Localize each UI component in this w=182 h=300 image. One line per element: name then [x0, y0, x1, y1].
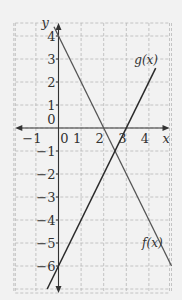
x-tick-label: 4: [141, 131, 149, 146]
x-axis-arrow-left-icon: [15, 125, 22, 131]
y-tick-label: −4: [36, 213, 55, 228]
function-graph: x y −11234043210−1−2−3−4−5−6 f(x) g(x): [0, 0, 182, 300]
y-tick-label: −3: [36, 190, 55, 205]
y-tick-label: 3: [47, 52, 55, 67]
y-tick-label: −2: [36, 167, 55, 182]
y-axis-label: y: [41, 15, 50, 30]
y-tick-label: 2: [47, 75, 55, 90]
x-tick-label: 2: [96, 131, 104, 146]
x-axis-label: x: [162, 131, 170, 146]
x-tick-label: 3: [118, 131, 126, 146]
y-tick-label: −1: [36, 144, 55, 159]
x-tick-label: 0: [60, 131, 68, 146]
y-tick-label: 0: [47, 112, 55, 127]
y-axis-arrow-up-icon: [56, 23, 62, 30]
y-tick-label: −5: [36, 236, 55, 251]
series-label-g: g(x): [134, 53, 158, 67]
series-line-g: [47, 68, 155, 289]
y-tick-label: 1: [47, 98, 55, 113]
series-label-f: f(x): [141, 236, 163, 250]
x-tick-label: 1: [73, 131, 81, 146]
y-tick-label: 4: [47, 29, 55, 44]
y-axis-arrow-down-icon: [56, 286, 62, 293]
y-tick-label: −6: [36, 259, 55, 274]
series: f(x) g(x): [47, 27, 171, 289]
